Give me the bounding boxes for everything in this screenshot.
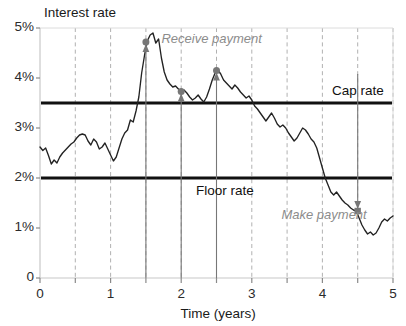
cap-rate-label: Cap rate bbox=[332, 83, 384, 98]
y-tick-label-1: 1% bbox=[0, 219, 34, 234]
x-tick-label-0: 0 bbox=[25, 286, 55, 301]
x-tick-label-3: 3 bbox=[237, 286, 267, 301]
x-tick-label-4: 4 bbox=[307, 286, 337, 301]
floor-rate-label: Floor rate bbox=[196, 183, 254, 198]
y-tick-label-4: 4% bbox=[0, 69, 34, 84]
y-tick-label-2: 2% bbox=[0, 169, 34, 184]
x-axis-title: Time (years) bbox=[181, 306, 256, 321]
chart-canvas bbox=[0, 0, 406, 326]
x-tick-marks bbox=[40, 278, 393, 283]
y-tick-label-3: 3% bbox=[0, 119, 34, 134]
x-tick-label-1: 1 bbox=[96, 286, 126, 301]
make-payment-annotation: Make payment bbox=[281, 207, 366, 222]
grid-lines bbox=[75, 28, 393, 278]
y-axis-title: Interest rate bbox=[44, 5, 116, 20]
y-tick-label-0: 0 bbox=[0, 269, 34, 284]
y-tick-label-5: 5% bbox=[0, 19, 34, 34]
x-tick-label-5: 5 bbox=[378, 286, 406, 301]
receive-payment-annotation: Receive payment bbox=[161, 31, 261, 46]
x-tick-label-2: 2 bbox=[166, 286, 196, 301]
chart-figure: 01%2%3%4%5%012345Interest rateTime (year… bbox=[0, 0, 406, 326]
